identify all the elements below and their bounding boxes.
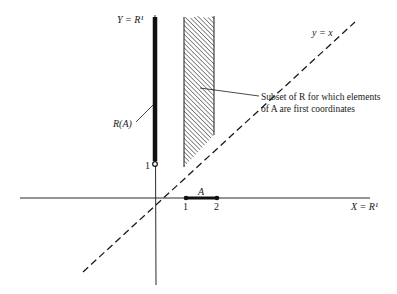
diagram-canvas — [0, 0, 397, 294]
range-pointer — [136, 105, 153, 122]
open-endpoint — [153, 162, 158, 167]
y-tick-1: 1 — [145, 160, 150, 171]
closed-endpoint-2 — [215, 196, 220, 201]
closed-endpoint-1 — [184, 196, 189, 201]
x-tick-1: 1 — [183, 201, 188, 212]
annotation-line-1: Subset of R for which elements — [261, 91, 381, 103]
hatched-subset-region — [184, 16, 214, 167]
y-axis-label: Y = R¹ — [117, 14, 143, 25]
diagonal-label: y = x — [312, 27, 333, 38]
diagonal-line — [83, 22, 355, 272]
set-a-label: A — [198, 186, 204, 197]
x-axis-label: X = R¹ — [351, 201, 378, 212]
annotation-line-2: of A are first coordinates — [261, 103, 355, 115]
range-label: R(A) — [113, 118, 132, 129]
x-tick-2: 2 — [214, 201, 219, 212]
